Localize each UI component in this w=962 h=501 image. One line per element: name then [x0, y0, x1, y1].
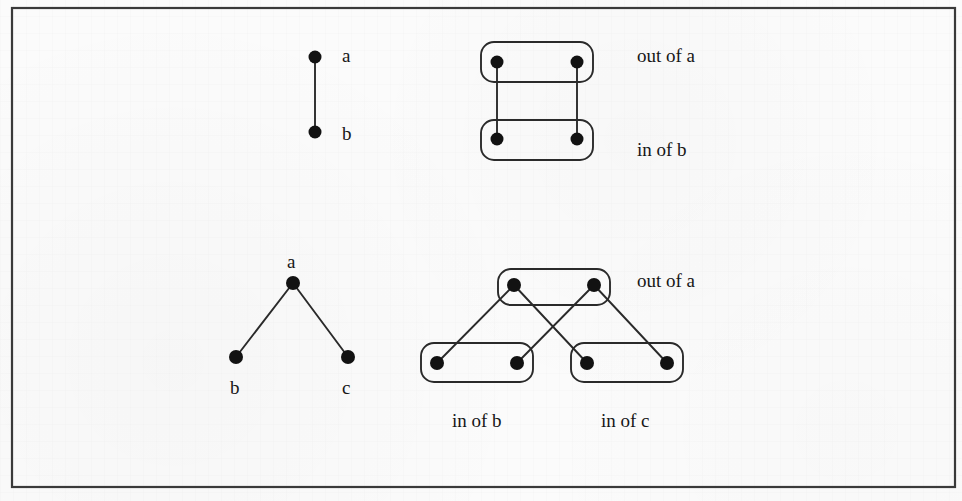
label-in-of-c-bottom: in of c: [601, 410, 650, 431]
edge-out-a-2-in-c-2-cross: [594, 285, 667, 363]
label-out-of-a-bottom: out of a: [637, 270, 696, 291]
node-in-b-2-bottom: [510, 356, 524, 370]
node-b-tree: [229, 350, 243, 364]
panel-bottom-left-graph: a b c: [229, 251, 355, 398]
node-out-a-1: [491, 56, 504, 69]
panel-bottom-right-expansion: out of a in of b in of c: [421, 269, 696, 431]
figure-canvas: a b out of a in of b a b c: [0, 0, 962, 501]
node-in-b-1-bottom: [430, 356, 444, 370]
node-label-c-tree: c: [342, 377, 350, 398]
label-out-of-a-top: out of a: [637, 45, 696, 66]
node-a-tree: [286, 276, 300, 290]
panel-top-right-expansion: out of a in of b: [481, 42, 696, 160]
node-in-b-2: [571, 133, 584, 146]
node-in-c-1-bottom: [580, 356, 594, 370]
node-a: [309, 51, 322, 64]
edge-out-a-2-in-b-2-cross: [517, 285, 594, 363]
node-label-b-tree: b: [230, 377, 240, 398]
edge-out-a-1-in-b-1-cross: [437, 285, 514, 363]
edge-out-a-1-in-c-1-cross: [514, 285, 587, 363]
label-in-of-b-top: in of b: [637, 139, 687, 160]
node-c-tree: [341, 350, 355, 364]
node-out-a-1-bottom: [507, 278, 521, 292]
label-in-of-b-bottom: in of b: [452, 410, 502, 431]
node-label-a-tree: a: [287, 251, 296, 272]
node-label-b: b: [342, 123, 352, 144]
node-in-c-2-bottom: [660, 356, 674, 370]
node-label-a: a: [342, 45, 351, 66]
node-in-b-1: [491, 133, 504, 146]
edge-a-c-tree: [293, 283, 348, 357]
node-out-a-2-bottom: [587, 278, 601, 292]
node-out-a-2: [571, 56, 584, 69]
panel-top-left-graph: a b: [309, 45, 352, 144]
node-b: [309, 126, 322, 139]
edge-a-b-tree: [236, 283, 293, 357]
figure-root: a b out of a in of b a b c: [0, 0, 962, 501]
